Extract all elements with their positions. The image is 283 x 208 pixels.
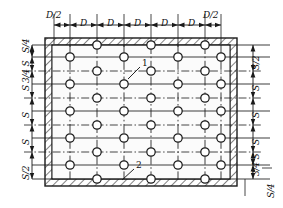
hole — [174, 134, 182, 142]
hole — [201, 175, 209, 183]
hole — [201, 67, 209, 75]
hole — [147, 148, 155, 156]
hole — [201, 121, 209, 129]
right-dim-label-5: S/4 — [267, 184, 276, 198]
hole — [217, 134, 225, 142]
top-dim-label-6: D/2 — [203, 11, 218, 20]
left-dim-label-3: S — [22, 112, 31, 118]
top-dim-label-1: D — [80, 19, 87, 28]
hole — [93, 121, 101, 129]
hole — [147, 175, 155, 183]
right-dim-label-1: S — [252, 85, 261, 91]
hole — [201, 41, 209, 49]
hole — [120, 80, 128, 88]
left-dim-label-4: S — [22, 139, 31, 145]
hole — [66, 134, 74, 142]
right-dim-label-0: S/2 — [252, 56, 261, 70]
hole — [174, 107, 182, 115]
hole — [120, 161, 128, 169]
hole — [174, 80, 182, 88]
plate-interior-field — [53, 46, 230, 179]
top-dim-label-5: D — [188, 19, 195, 28]
hole — [217, 107, 225, 115]
hole — [147, 41, 155, 49]
hole — [120, 134, 128, 142]
top-dim-label-4: D — [161, 19, 168, 28]
hole — [217, 53, 225, 61]
left-dim-label-2: S — [22, 85, 31, 91]
top-dim-label-3: D — [134, 19, 141, 28]
hole — [147, 67, 155, 75]
hole — [93, 175, 101, 183]
hole — [66, 80, 74, 88]
callout-1-label: 1 — [142, 59, 148, 68]
hole — [66, 53, 74, 61]
hole — [93, 67, 101, 75]
top-dim-label-2: D — [107, 19, 114, 28]
right-dim-label-2: S — [252, 112, 261, 118]
left-dim-label-5: S/2 — [22, 166, 31, 180]
hole — [217, 80, 225, 88]
left-dim-label-0: S/4 — [22, 39, 31, 53]
hole — [147, 94, 155, 102]
left-dim-label-1: 3/4 S — [22, 60, 31, 83]
hole — [66, 107, 74, 115]
hole — [120, 107, 128, 115]
hole — [217, 161, 225, 169]
top-dim-label-0: D/2 — [46, 11, 61, 20]
right-dim-label-3: S — [252, 139, 261, 145]
hole — [93, 148, 101, 156]
hole — [174, 161, 182, 169]
technical-drawing-canvas: D/2 D D D D D D/2 S/4 3/4 S S S S S/2 S/… — [0, 0, 283, 208]
right-dim-label-4: 3/4 S — [252, 153, 261, 176]
hole — [201, 94, 209, 102]
hole — [147, 121, 155, 129]
hole — [120, 53, 128, 61]
callout-2-label: 2 — [136, 161, 142, 170]
hole — [93, 94, 101, 102]
hole — [201, 148, 209, 156]
hole — [93, 41, 101, 49]
hole — [174, 53, 182, 61]
hole — [66, 161, 74, 169]
drawing-svg — [0, 0, 283, 208]
